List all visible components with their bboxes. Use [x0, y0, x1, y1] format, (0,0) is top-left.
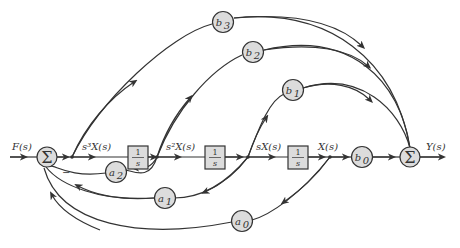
feedback-sign: −	[62, 167, 70, 178]
signal-s3X-label: s³X(s)	[82, 141, 111, 152]
gain-b3: b 3	[213, 12, 234, 33]
svg-text:3: 3	[224, 20, 230, 31]
svg-text:s: s	[136, 159, 140, 168]
svg-text:0: 0	[363, 155, 370, 166]
gain-b2: b 2	[243, 42, 264, 63]
gain-b1: b 1	[283, 80, 304, 101]
feedback-paths	[44, 157, 330, 230]
signal-sX-label: sX(s)	[256, 141, 281, 152]
svg-text:b: b	[246, 47, 252, 58]
svg-text:1: 1	[294, 88, 300, 99]
gain-a1: a 1	[155, 188, 176, 209]
svg-text:2: 2	[253, 50, 260, 61]
svg-text:2: 2	[116, 170, 123, 181]
svg-text:s: s	[213, 159, 217, 168]
svg-text:s: s	[296, 159, 300, 168]
gain-b0: b 0	[352, 147, 373, 168]
svg-text:Σ: Σ	[41, 148, 52, 167]
output-summing-junction: Σ	[400, 147, 420, 167]
signal-s2X-label: s²X(s)	[166, 141, 195, 152]
integrator-block-1: 1 s	[128, 146, 148, 169]
gain-a0: a 0	[232, 211, 253, 232]
integrator-block-3: 1 s	[288, 146, 308, 169]
svg-text:1: 1	[135, 148, 140, 157]
svg-text:b: b	[216, 17, 222, 28]
svg-text:1: 1	[295, 148, 300, 157]
input-label: F(s)	[11, 141, 32, 152]
svg-text:0: 0	[243, 219, 250, 230]
svg-text:b: b	[286, 85, 292, 96]
svg-text:1: 1	[166, 196, 172, 207]
integrator-block-2: 1 s	[205, 146, 225, 169]
signal-X-label: X(s)	[317, 141, 338, 152]
block-diagram: Σ − Σ 1 s 1 s 1 s b 3 b 2 b 1	[0, 0, 460, 248]
gain-a2: a 2	[106, 162, 127, 183]
svg-text:b: b	[355, 152, 361, 163]
input-summing-junction: Σ	[37, 147, 57, 167]
svg-text:a: a	[158, 193, 164, 204]
svg-text:Σ: Σ	[404, 148, 415, 167]
svg-text:1: 1	[212, 148, 217, 157]
svg-text:a: a	[235, 216, 241, 227]
svg-text:a: a	[109, 167, 115, 178]
feedforward-paths	[72, 17, 410, 157]
output-label: Y(s)	[426, 141, 446, 152]
